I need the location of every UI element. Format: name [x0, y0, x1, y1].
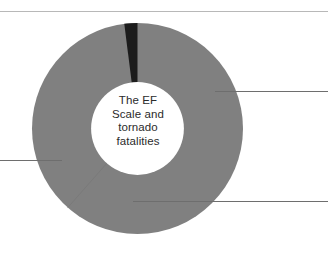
- figure-canvas: The EF Scale and tornado fatalities: [0, 0, 328, 255]
- donut-hole: [91, 82, 184, 175]
- donut-chart: [0, 0, 328, 255]
